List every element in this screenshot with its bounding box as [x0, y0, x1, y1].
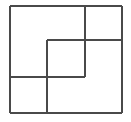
region-bottom-middle: [47, 77, 85, 113]
figure-regions: [10, 6, 122, 113]
region-top-right: [85, 6, 122, 40]
region-right: [85, 40, 122, 113]
figure-canvas: Overlapping rectangles pinwheel figure A…: [0, 0, 131, 122]
region-bottom-left: [10, 77, 47, 113]
region-center: [47, 40, 85, 77]
geometric-line-figure: Overlapping rectangles pinwheel figure A…: [0, 0, 131, 122]
